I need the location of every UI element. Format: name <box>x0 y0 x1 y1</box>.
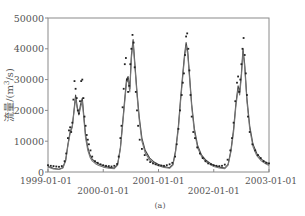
observed-point <box>247 116 249 118</box>
observed-point <box>69 126 71 128</box>
observed-point <box>108 165 110 167</box>
observed-point <box>174 156 176 158</box>
observed-point <box>210 163 212 165</box>
observed-point <box>70 131 72 133</box>
observed-point <box>144 154 146 156</box>
observed-point <box>77 110 79 112</box>
observed-point <box>147 159 149 161</box>
observed-point <box>245 73 247 75</box>
observed-point <box>184 54 186 56</box>
observed-point <box>122 106 124 108</box>
observed-point <box>134 66 136 68</box>
observed-point <box>50 165 52 167</box>
observed-point <box>129 63 131 65</box>
observed-point <box>100 163 102 165</box>
observed-point <box>237 76 239 78</box>
hydrograph-chart: 流量/(m3/s) 01000020000300004000050000 199… <box>0 0 305 216</box>
observed-point <box>121 125 123 127</box>
observed-point <box>123 88 125 90</box>
observed-point <box>257 154 259 156</box>
observed-point <box>236 82 238 84</box>
observed-point <box>116 163 118 165</box>
observed-point <box>163 165 165 167</box>
observed-point <box>233 122 235 124</box>
x-tick-label: 1999-01-01 <box>20 176 72 186</box>
x-axis: 1999-01-012000-01-012001-01-012002-01-01… <box>20 169 297 196</box>
observed-point <box>249 131 251 133</box>
observed-point <box>97 162 99 164</box>
observed-point <box>74 80 76 82</box>
observed-point <box>160 165 162 167</box>
x-tick-label: 2000-01-01 <box>77 186 129 196</box>
observed-point <box>47 164 49 166</box>
plot-area-frame <box>48 18 269 172</box>
observed-point <box>189 70 191 72</box>
observed-point <box>84 116 86 118</box>
observed-point <box>141 148 143 150</box>
observed-point <box>79 100 81 102</box>
observed-point <box>213 164 215 166</box>
observed-point <box>91 156 93 158</box>
simulated-series <box>48 40 269 170</box>
observed-point <box>73 99 75 101</box>
series-line <box>48 43 269 170</box>
observed-point <box>131 48 133 50</box>
observed-point <box>68 130 70 132</box>
x-tick-label: 2003-01-01 <box>245 176 297 186</box>
observed-point <box>86 134 88 136</box>
observed-point <box>254 150 256 152</box>
observed-point <box>133 42 135 44</box>
observed-point <box>152 163 154 165</box>
observed-point <box>155 163 157 165</box>
observed-point <box>186 33 188 35</box>
plot-border <box>48 18 269 172</box>
observed-point <box>176 143 178 145</box>
observed-point <box>224 164 226 166</box>
observed-point <box>128 85 130 87</box>
observed-point <box>76 97 78 99</box>
observed-point <box>83 97 85 99</box>
observed-point <box>178 128 180 130</box>
y-tick-label: 20000 <box>14 105 44 116</box>
observed-point <box>88 143 90 145</box>
observed-point <box>171 162 173 164</box>
observed-point <box>53 165 55 167</box>
observed-point <box>218 165 220 167</box>
observed-point <box>61 165 63 167</box>
observed-point <box>229 150 231 152</box>
observed-point <box>81 79 83 81</box>
observed-point <box>244 54 246 56</box>
observed-point <box>246 94 248 96</box>
observed-point <box>126 79 128 81</box>
observed-point <box>71 122 73 124</box>
observed-point <box>64 160 66 162</box>
observed-point <box>139 139 141 141</box>
observed-point <box>179 110 181 112</box>
observed-point <box>136 110 138 112</box>
observed-point <box>90 150 92 152</box>
observed-point <box>78 113 80 115</box>
observed-point <box>265 162 267 164</box>
observed-point <box>125 57 127 59</box>
observed-point <box>252 143 254 145</box>
observed-point <box>243 37 245 39</box>
x-tick-label: 2001-01-01 <box>133 176 185 186</box>
observed-point <box>183 73 185 75</box>
observed-point <box>67 137 69 139</box>
y-tick-label: 30000 <box>14 74 44 85</box>
observed-point <box>263 160 265 162</box>
observed-point <box>127 91 129 93</box>
observed-point <box>239 79 241 81</box>
observed-point <box>185 36 187 38</box>
observed-point <box>135 91 137 93</box>
observed-point <box>113 165 115 167</box>
observed-point <box>196 147 198 149</box>
observed-point <box>216 165 218 167</box>
y-axis: 01000020000300004000050000 <box>14 13 48 178</box>
y-tick-label: 40000 <box>14 43 44 54</box>
observed-point <box>65 153 67 155</box>
observed-point <box>242 48 244 50</box>
observed-point <box>149 161 151 163</box>
observed-point <box>221 165 223 167</box>
x-tick-label: 2002-01-01 <box>188 186 240 196</box>
